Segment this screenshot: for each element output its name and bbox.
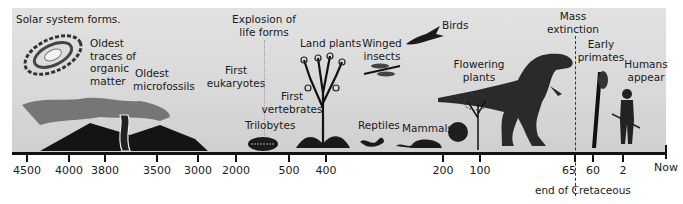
volcano-icon xyxy=(20,95,210,153)
axis-tick xyxy=(622,155,624,162)
rodent-icon xyxy=(396,136,444,150)
axis-tick xyxy=(235,155,237,162)
axis-tick-label: 2 xyxy=(620,164,627,177)
label-mass-extinction: Mass extinction xyxy=(547,10,599,35)
axis-tick xyxy=(288,155,290,162)
axis-tick xyxy=(665,145,667,159)
label-solar-system: Solar system forms. xyxy=(16,13,121,26)
axis-tick-label: 3500 xyxy=(143,164,171,177)
axis-tick xyxy=(574,155,576,162)
cretaceous-note: end of Cretaceous xyxy=(535,184,631,196)
axis-tick xyxy=(68,155,70,162)
label-microfossils: Oldest microfossils xyxy=(133,67,195,92)
label-birds: Birds xyxy=(442,19,468,32)
label-explosion: Explosion of life forms xyxy=(232,13,296,38)
flowering-plant-icon xyxy=(448,84,488,150)
label-winged-insects: Winged insects xyxy=(362,37,402,62)
axis-tick xyxy=(197,155,199,162)
axis-tick-label: Now xyxy=(654,161,678,174)
label-vertebrates: First vertebrates xyxy=(261,90,322,115)
axis-tick-label: 500 xyxy=(279,164,300,177)
axis-tick xyxy=(26,155,28,162)
label-humans-appear: Humans appear xyxy=(624,58,667,83)
axis-tick-label: 2000 xyxy=(222,164,250,177)
label-organic-matter: Oldest traces of organic matter xyxy=(90,37,136,87)
label-mammals: Mammals xyxy=(402,122,453,135)
axis-tick-label: 100 xyxy=(470,164,491,177)
label-land-plants: Land plants xyxy=(300,37,361,50)
axis-tick xyxy=(592,155,594,162)
axis-tick-label: 60 xyxy=(586,164,600,177)
axis-tick-label: 65 xyxy=(562,164,576,177)
dragonfly-icon xyxy=(362,62,402,78)
bird-icon xyxy=(404,24,444,48)
axis-tick-label: 3000 xyxy=(184,164,212,177)
axis-tick xyxy=(479,155,481,162)
galaxy-icon xyxy=(18,28,88,83)
axis-tick-label: 4500 xyxy=(13,164,41,177)
trilobite-icon xyxy=(246,134,280,152)
label-flowering-plants: Flowering plants xyxy=(454,58,505,83)
timeline-axis xyxy=(12,152,667,155)
axis-tick xyxy=(325,155,327,162)
axis-tick-label: 3800 xyxy=(91,164,119,177)
label-early-primates: Early primates xyxy=(578,38,625,63)
axis-tick-label: 4000 xyxy=(55,164,83,177)
early-human-icon xyxy=(612,88,642,146)
axis-tick xyxy=(442,155,444,162)
label-reptiles: Reptiles xyxy=(358,119,400,132)
label-trilobytes: Trilobytes xyxy=(245,119,295,132)
primate-icon xyxy=(584,66,614,148)
label-eukaryotes: First eukaryotes xyxy=(207,64,265,89)
lizard-icon xyxy=(358,134,386,150)
axis-tick-label: 400 xyxy=(316,164,337,177)
axis-tick-label: 200 xyxy=(433,164,454,177)
axis-tick xyxy=(156,155,158,162)
axis-tick xyxy=(104,155,106,162)
